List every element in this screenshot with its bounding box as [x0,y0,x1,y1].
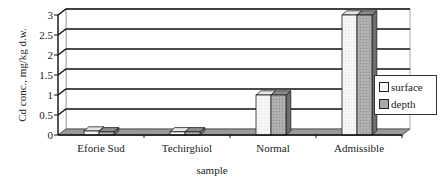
x-tick-label: Admissible [334,142,384,154]
bar-group-eforie-sud [84,127,119,135]
bar-depth [271,95,286,135]
x-tick-label: Eforie Sud [77,142,125,154]
y-tick-label: 1 [48,89,54,101]
bar-depth [357,15,372,135]
legend-swatch-depth-icon [379,99,389,109]
plot-area [58,9,410,135]
x-tick-label: Techirghiol [162,142,212,154]
x-axis-label: sample [196,164,227,176]
legend-item-depth: depth [379,97,415,111]
legend-label: depth [391,98,415,110]
bar-surface [342,15,357,135]
y-tick-label: 3 [48,9,54,21]
y-tick-label: 1.5 [39,69,53,81]
bar-surface [256,95,271,135]
x-tick-label: Normal [256,142,290,154]
legend-label: surface [391,81,423,93]
y-tick-label: 0 [48,129,54,141]
y-axis-label: Cd conc., mg/kg d.w. [16,28,28,122]
y-tick-label: 0.5 [39,109,53,121]
y-tick-label: 2 [48,49,54,61]
legend-swatch-surface-icon [379,82,389,92]
bar-group-admissible [342,11,377,135]
legend: surface depth [374,75,437,115]
legend-item-surface: surface [379,80,423,94]
bar-group-normal [256,91,291,135]
x-axis: Eforie SudTechirghiolNormalAdmissible [58,135,402,154]
y-tick-label: 2.5 [39,29,53,41]
y-axis: 00.511.522.53 [39,9,58,141]
bar-group-techirghiol [170,128,205,135]
